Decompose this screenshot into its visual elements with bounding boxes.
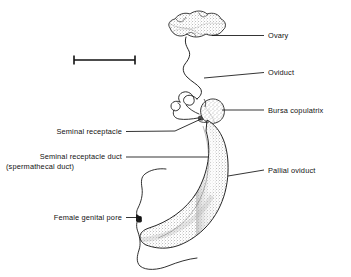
- leader-lines: [126, 36, 264, 218]
- scale-bar: [74, 56, 135, 65]
- label-pallial-oviduct: Pallial oviduct: [268, 166, 315, 176]
- leader-pallial-oviduct: [228, 170, 264, 176]
- ovary-shape: [168, 11, 228, 37]
- anatomy-figure: Ovary Oviduct Bursa copulatrix Pallial o…: [0, 0, 351, 277]
- label-seminal-receptacle-duct-line1: Seminal receptacle duct: [0, 152, 122, 162]
- label-female-genital-pore: Female genital pore: [0, 213, 122, 223]
- label-oviduct: Oviduct: [268, 68, 294, 78]
- label-ovary: Ovary: [268, 31, 288, 41]
- label-seminal-receptacle: Seminal receptacle: [0, 127, 122, 137]
- oviduct-shape: [183, 37, 201, 99]
- seminal-receptacle-shape: [171, 92, 204, 121]
- leader-seminal-receptacle: [126, 119, 201, 132]
- label-seminal-receptacle-duct: Seminal receptacle duct (spermathecal du…: [0, 152, 122, 171]
- label-seminal-receptacle-duct-line2: (spermathecal duct): [0, 162, 122, 172]
- label-bursa-copulatrix: Bursa copulatrix: [268, 106, 323, 116]
- leader-oviduct: [204, 73, 264, 79]
- bursa-copulatrix-shape: [201, 99, 225, 123]
- pallial-oviduct-shape: [140, 118, 232, 253]
- diagram-canvas: [0, 0, 351, 277]
